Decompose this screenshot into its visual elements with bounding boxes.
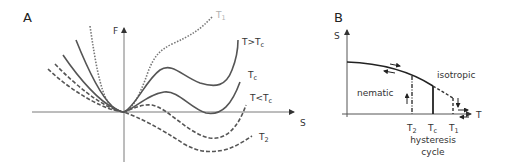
label-t-lt-tc: T<Tc	[249, 93, 273, 105]
s-axis-b-label: S	[334, 31, 340, 41]
s-axis-label: S	[300, 118, 306, 128]
curve-t-lt-tc	[55, 64, 246, 138]
tick-t1: T1	[448, 123, 459, 135]
panel-a-label: A	[23, 10, 32, 25]
figure: A F S T1 T>Tc Tc T<Tc T2	[0, 0, 507, 167]
isotropic-label: isotropic	[437, 70, 475, 80]
nematic-label: nematic	[357, 88, 394, 98]
superheated-branch	[433, 86, 453, 98]
f-axis-label: F	[113, 26, 118, 36]
caption-hysteresis: hysteresis	[410, 135, 456, 145]
label-tc: Tc	[247, 70, 258, 82]
curve-t-gt-tc	[76, 40, 238, 112]
order-parameter-curve	[347, 62, 433, 86]
tick-tc: Tc	[427, 123, 438, 135]
caption-cycle: cycle	[421, 147, 445, 157]
curve-t1	[90, 17, 212, 112]
t-axis-b-label: T	[475, 110, 482, 120]
label-t-gt-tc: T>Tc	[241, 37, 265, 49]
cooling-arrow	[384, 71, 395, 73]
heating-arrow	[390, 64, 400, 66]
label-t1: T1	[215, 10, 226, 22]
panel-b-label: B	[334, 10, 343, 25]
panel-b: B S T nematic isotropic T2 Tc	[334, 10, 482, 157]
panel-a: A F S T1 T>Tc Tc T<Tc T2	[23, 10, 306, 162]
curve-tc	[63, 55, 240, 113]
label-t2: T2	[258, 132, 269, 144]
tick-t2: T2	[406, 123, 417, 135]
